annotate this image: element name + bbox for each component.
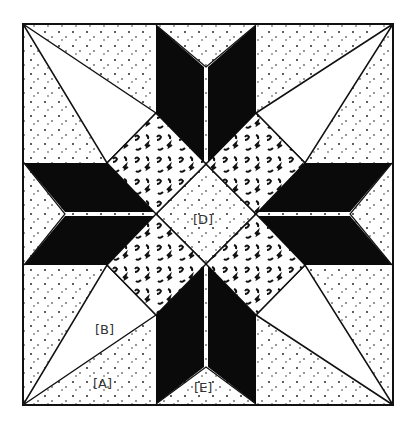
label-A: [A]: [93, 376, 112, 391]
label-E: [E]: [194, 380, 212, 395]
quilt-block: [D] [B] [A] [E]: [0, 0, 407, 430]
label-B: [B]: [95, 322, 114, 337]
label-D: [D]: [193, 212, 213, 227]
